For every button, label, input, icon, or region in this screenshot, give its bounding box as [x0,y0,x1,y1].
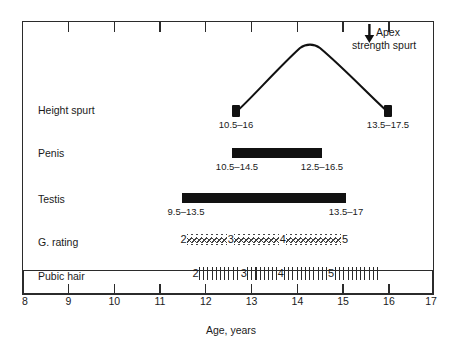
pubic-hair-hatch-2-3 [199,267,240,280]
x-tick-label-13: 13 [246,295,258,307]
x-tick-label-9: 9 [66,295,72,307]
g-rating-stage-strip: 2 3 4 5 [180,232,349,246]
pubic-hair-stage-4: 4 [277,266,284,280]
top-tick-9 [68,21,69,32]
x-tick-16 [388,284,389,293]
x-tick-label-12: 12 [200,295,212,307]
pubic-hair-hatch-5-end [335,267,379,280]
puberty-timeline-figure: Apex strength spurt Height spurt 10.5–16… [0,0,462,355]
x-tick-15 [342,284,343,293]
g-rating-stage-4: 4 [279,232,286,246]
x-axis-line [22,293,434,295]
top-tick-11 [159,21,160,32]
x-tick-label-14: 14 [292,295,304,307]
row-label-g-rating: G. rating [38,236,78,248]
x-tick-label-17: 17 [425,295,437,307]
testis-bar [182,193,346,203]
top-tick-12 [205,21,206,32]
g-rating-hatch-2-3 [187,234,227,245]
g-rating-stage-2: 2 [180,232,187,246]
g-rating-stage-3: 3 [227,232,234,246]
row-label-height-spurt: Height spurt [38,104,95,116]
x-tick-label-16: 16 [383,295,395,307]
top-tick-13 [251,21,252,32]
pubic-hair-stage-5: 5 [327,266,334,280]
row-label-pubic-hair: Pubic hair [38,270,85,282]
top-tick-10 [114,21,115,32]
row-label-testis: Testis [38,193,65,205]
pubic-hair-stage-3: 3 [240,266,247,280]
pubic-hair-stage-2: 2 [192,266,199,280]
g-rating-hatch-3-4 [234,234,279,245]
penis-start-label: 10.5–14.5 [216,161,258,172]
pubic-hair-hatch-4-5 [284,267,327,280]
top-tick-14 [297,21,298,32]
height-spurt-end-marker [384,105,392,117]
top-tick-15 [342,21,343,32]
x-tick-label-11: 11 [155,295,166,307]
pubic-hair-hatch-3-4 [247,267,277,280]
x-tick-label-10: 10 [108,295,120,307]
row-label-penis: Penis [38,147,64,159]
penis-bar [232,148,322,158]
height-spurt-start-marker [232,105,240,117]
height-spurt-end-label: 13.5–17.5 [367,119,409,130]
testis-start-label: 9.5–13.5 [168,206,205,217]
x-tick-12 [205,284,206,293]
x-tick-label-15: 15 [337,295,349,307]
x-axis-right-cap [432,271,434,293]
x-tick-14 [297,284,298,293]
pubic-hair-stage-strip: 2 3 4 5 [192,266,379,280]
apex-note-line1: Apex [376,26,400,38]
x-tick-11 [159,284,160,293]
penis-end-label: 12.5–16.5 [301,161,343,172]
x-axis-title: Age, years [0,324,462,336]
g-rating-stage-5: 5 [341,232,348,246]
x-axis-left-cap [22,271,24,293]
x-tick-9 [68,284,69,293]
x-tick-10 [114,284,115,293]
x-tick-label-8: 8 [22,295,28,307]
height-spurt-start-label: 10.5–16 [219,119,253,130]
g-rating-hatch-4-5 [286,234,341,245]
height-spurt-curve [228,40,396,116]
testis-end-label: 13.5–17 [329,206,363,217]
x-tick-13 [251,284,252,293]
